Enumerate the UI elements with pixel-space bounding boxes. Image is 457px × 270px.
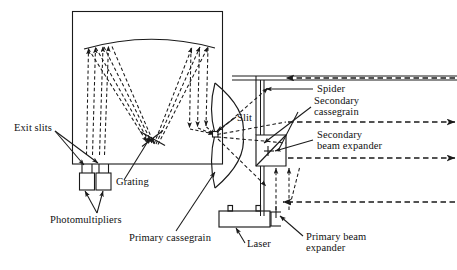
diagram-canvas — [0, 0, 457, 270]
label-secondary-beam-expander-line2: beam expander — [317, 140, 382, 151]
ray-bundle-grating-to-mirror — [154, 47, 208, 145]
optical-diagram: Exit slits Photomultipliers Grating Prim… — [0, 0, 457, 270]
label-slit: Slit — [237, 112, 252, 124]
ray-bundle-mirror-to-slit — [190, 48, 209, 129]
leader-laser — [236, 228, 245, 243]
laser-head — [219, 206, 270, 228]
secondary-beam-expander — [264, 146, 274, 156]
label-grating: Grating — [116, 176, 149, 188]
leader-primary-beam-expander — [280, 216, 303, 236]
label-primary-beam-expander: Primary beam expander — [306, 231, 366, 253]
leader-slit — [217, 117, 236, 131]
label-photomultipliers: Photomultipliers — [50, 214, 122, 226]
leader-grating — [124, 138, 150, 180]
label-laser: Laser — [247, 238, 271, 250]
ray-bundle-laser-vertical — [276, 166, 300, 210]
leader-photomultipliers — [85, 191, 103, 213]
label-secondary-cassegrain: Secondary cassegrain — [314, 95, 359, 117]
leader-exit-slits — [55, 131, 98, 165]
leader-primary-cassegrain — [176, 172, 215, 231]
label-secondary-beam-expander-line1: Secondary — [317, 129, 382, 140]
collimating-mirror — [84, 39, 215, 49]
label-secondary-cassegrain-line2: cassegrain — [314, 106, 359, 117]
label-primary-beam-expander-line1: Primary beam — [306, 231, 366, 242]
label-primary-cassegrain: Primary cassegrain — [129, 232, 211, 244]
label-exit-slits: Exit slits — [14, 122, 52, 134]
ray-bundle-exit-slits — [87, 46, 109, 155]
ray-bundle-slit-to-secondary — [217, 88, 286, 186]
ray-bundle-mirror-to-grating — [89, 47, 155, 144]
photomultiplier-tube-1 — [80, 164, 95, 190]
leader-secondary-beam-expander — [275, 112, 313, 151]
ray-bundle-into-slit — [190, 127, 215, 135]
label-secondary-cassegrain-line1: Secondary — [314, 95, 359, 106]
label-primary-beam-expander-line2: expander — [306, 242, 366, 253]
photomultiplier-tube-2 — [96, 164, 111, 190]
label-spider: Spider — [317, 83, 345, 95]
leader-secondary-cassegrain — [264, 107, 311, 143]
label-secondary-beam-expander: Secondary beam expander — [317, 129, 382, 151]
